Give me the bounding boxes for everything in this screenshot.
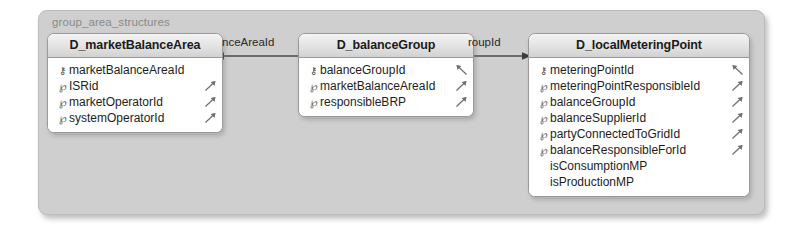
entity-d-balancegroup[interactable]: D_balanceGroup ⚷balanceGroupId ℘marketBa… (298, 33, 474, 117)
no-key-icon: ℘ (537, 174, 550, 190)
foreign-key-arrow-icon (204, 95, 217, 108)
field-row[interactable]: ℘meteringPointResponsibleId (529, 78, 749, 94)
entity-field-list: ⚷marketBalanceAreaId ℘ISRid ℘marketOpera… (48, 58, 222, 132)
field-row[interactable]: ℘balanceResponsibleForId (529, 142, 749, 158)
foreign-key-arrow-icon (731, 111, 744, 124)
foreign-key-icon: ℘ (56, 110, 69, 126)
field-row[interactable]: ℘partyConnectedToGridId (529, 126, 749, 142)
field-label: meteringPointResponsibleId (550, 78, 700, 94)
foreign-key-arrow-icon (731, 63, 744, 76)
field-row[interactable]: ℘balanceGroupId (529, 94, 749, 110)
foreign-key-arrow-icon (204, 111, 217, 124)
foreign-key-icon: ℘ (56, 78, 69, 94)
field-row[interactable]: ℘marketOperatorId (48, 94, 222, 110)
entity-d-localmeteringpoint[interactable]: D_localMeteringPoint ⚷meteringPointId ℘m… (528, 33, 750, 197)
field-row[interactable]: ℘ISRid (48, 78, 222, 94)
field-row[interactable]: ℘responsibleBRP (299, 94, 473, 110)
foreign-key-icon: ℘ (307, 78, 320, 94)
relationship-label-1: nceAreaId (222, 36, 274, 48)
field-label: balanceGroupId (550, 94, 635, 110)
foreign-key-arrow-icon (204, 79, 217, 92)
entity-field-list: ⚷balanceGroupId ℘marketBalanceAreaId ℘re… (299, 58, 473, 116)
field-label: balanceResponsibleForId (550, 142, 686, 158)
field-label: balanceSupplierId (550, 110, 646, 126)
field-label: marketOperatorId (69, 94, 163, 110)
field-label: responsibleBRP (320, 94, 406, 110)
field-label: isProductionMP (550, 174, 634, 190)
foreign-key-icon: ℘ (537, 142, 550, 158)
no-key-icon: ℘ (537, 158, 550, 174)
entity-d-marketbalancearea[interactable]: D_marketBalanceArea ⚷marketBalanceAreaId… (47, 33, 223, 133)
field-row[interactable]: ℘systemOperatorId (48, 110, 222, 126)
field-label: marketBalanceAreaId (320, 78, 435, 94)
entity-header: D_marketBalanceArea (48, 34, 222, 58)
primary-key-icon: ⚷ (307, 63, 320, 79)
field-label: balanceGroupId (320, 62, 405, 78)
field-label: partyConnectedToGridId (550, 126, 680, 142)
group-title: group_area_structures (52, 16, 170, 28)
foreign-key-icon: ℘ (537, 126, 550, 142)
foreign-key-icon: ℘ (537, 78, 550, 94)
entity-header: D_localMeteringPoint (529, 34, 749, 58)
field-label: systemOperatorId (69, 110, 164, 126)
entity-field-list: ⚷meteringPointId ℘meteringPointResponsib… (529, 58, 749, 196)
foreign-key-icon: ℘ (307, 94, 320, 110)
foreign-key-arrow-icon (731, 95, 744, 108)
field-row[interactable]: ℘isConsumptionMP (529, 158, 749, 174)
field-row[interactable]: ⚷meteringPointId (529, 62, 749, 78)
foreign-key-arrow-icon (731, 127, 744, 140)
entity-header: D_balanceGroup (299, 34, 473, 58)
field-label: marketBalanceAreaId (69, 62, 184, 78)
er-diagram-canvas: group_area_structures nceAreaId roupId D… (0, 0, 790, 246)
foreign-key-icon: ℘ (537, 110, 550, 126)
field-row[interactable]: ⚷marketBalanceAreaId (48, 62, 222, 78)
foreign-key-arrow-icon (731, 143, 744, 156)
foreign-key-arrow-icon (455, 63, 468, 76)
field-row[interactable]: ℘balanceSupplierId (529, 110, 749, 126)
foreign-key-arrow-icon (455, 79, 468, 92)
relationship-label-2: roupId (468, 36, 501, 48)
foreign-key-arrow-icon (731, 79, 744, 92)
field-label: meteringPointId (550, 62, 634, 78)
field-row[interactable]: ℘isProductionMP (529, 174, 749, 190)
foreign-key-icon: ℘ (56, 94, 69, 110)
field-row[interactable]: ℘marketBalanceAreaId (299, 78, 473, 94)
primary-key-icon: ⚷ (537, 63, 550, 79)
foreign-key-arrow-icon (455, 95, 468, 108)
field-row[interactable]: ⚷balanceGroupId (299, 62, 473, 78)
field-label: isConsumptionMP (550, 158, 647, 174)
foreign-key-icon: ℘ (537, 94, 550, 110)
primary-key-icon: ⚷ (56, 63, 69, 79)
field-label: ISRid (69, 78, 98, 94)
